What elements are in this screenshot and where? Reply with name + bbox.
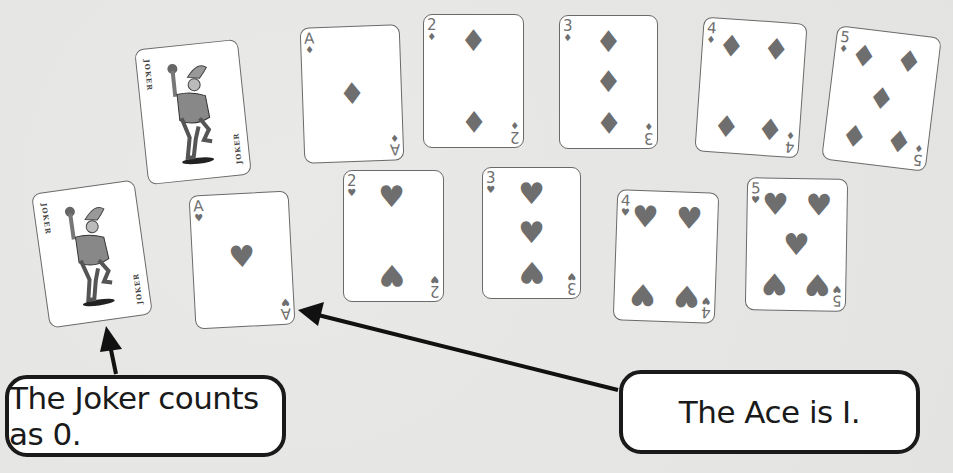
card-values-illustration: JOKER JOKER JOKER JOKER A♦ A <box>0 0 953 473</box>
arrow-to-joker <box>100 326 122 374</box>
joker-callout-text: The Joker counts as 0. <box>9 380 282 452</box>
ace-callout: The Ace is I. <box>619 370 920 454</box>
joker-callout: The Joker counts as 0. <box>5 375 286 457</box>
ace-callout-text: The Ace is I. <box>679 394 860 430</box>
arrow-to-ace <box>298 302 618 390</box>
